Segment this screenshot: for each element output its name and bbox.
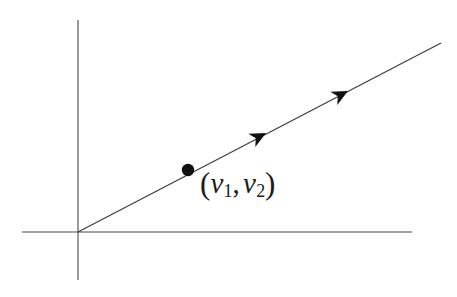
- label-sub-1: 1: [224, 181, 233, 201]
- label-var-2: v: [243, 167, 256, 199]
- vector-line-figure: (v1,v2): [0, 0, 457, 297]
- label-close-paren: ): [265, 166, 276, 201]
- label-comma: ,: [233, 167, 243, 199]
- arrowhead-upper-icon: [330, 84, 351, 105]
- label-open-paren: (: [200, 166, 211, 201]
- label-sub-2: 2: [256, 181, 265, 201]
- vector-point: [182, 164, 194, 176]
- label-var-1: v: [211, 167, 224, 199]
- vector-point-label: (v1,v2): [200, 168, 276, 200]
- arrowhead-lower-icon: [248, 126, 269, 147]
- figure-canvas: [0, 0, 457, 297]
